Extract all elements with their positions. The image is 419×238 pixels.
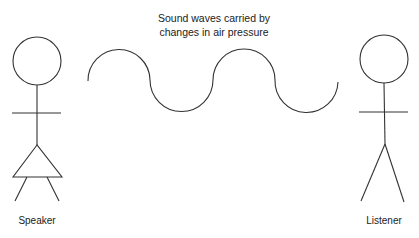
- listener-body: [384, 83, 385, 144]
- sound-diagram: Sound waves carried by changes in air pr…: [0, 0, 419, 238]
- wave-caption: Sound waves carried by changes in air pr…: [134, 11, 294, 39]
- speaker-figure: [12, 37, 62, 201]
- listener-left-leg: [361, 144, 385, 201]
- sound-wave: [88, 49, 338, 113]
- speaker-left-leg: [15, 177, 27, 201]
- caption-line-1: Sound waves carried by: [134, 11, 294, 25]
- listener-label: Listener: [344, 215, 419, 226]
- speaker-head: [13, 37, 61, 85]
- caption-line-2: changes in air pressure: [134, 25, 294, 39]
- listener-right-leg: [385, 144, 404, 202]
- speaker-dress: [13, 145, 62, 177]
- speaker-label: Speaker: [0, 215, 77, 226]
- speaker-right-leg: [47, 177, 59, 201]
- listener-head: [360, 35, 408, 83]
- listener-figure: [359, 35, 408, 202]
